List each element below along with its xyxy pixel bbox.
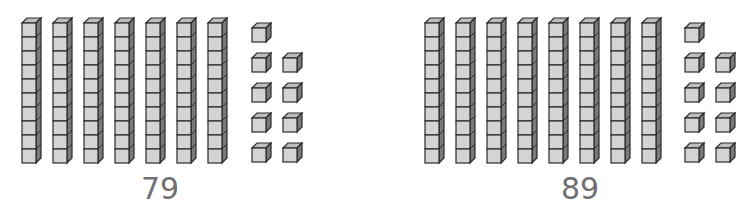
block-group-89 — [0, 0, 753, 214]
ten-rod — [580, 18, 599, 163]
unit-cube — [685, 23, 704, 42]
unit-cube — [716, 143, 735, 162]
unit-cube — [685, 83, 704, 102]
ten-rod — [518, 18, 537, 163]
number-label-89: 89 — [540, 174, 620, 204]
unit-cube — [685, 113, 704, 132]
ten-rod — [425, 18, 444, 163]
ten-rod — [611, 18, 630, 163]
unit-cube — [685, 53, 704, 72]
ten-rod — [456, 18, 475, 163]
unit-cube — [716, 113, 735, 132]
ten-rod — [487, 18, 506, 163]
unit-cube — [716, 53, 735, 72]
number-label-79: 79 — [120, 174, 200, 204]
unit-cube — [685, 143, 704, 162]
unit-cube — [716, 83, 735, 102]
ten-rod — [549, 18, 568, 163]
ten-rod — [642, 18, 661, 163]
